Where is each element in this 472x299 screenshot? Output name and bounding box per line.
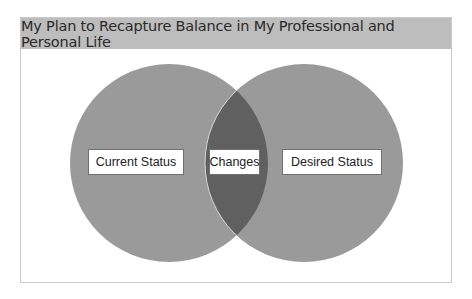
changes-label: Changes xyxy=(209,149,260,175)
current-status-label: Current Status xyxy=(88,149,184,175)
desired-status-label: Desired Status xyxy=(282,149,382,175)
